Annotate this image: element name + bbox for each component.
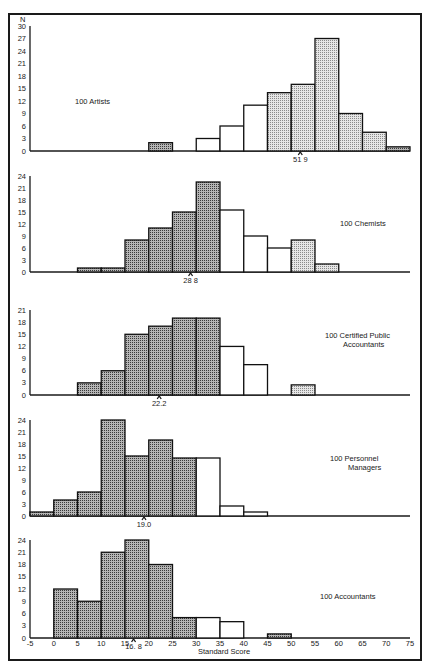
histogram-bar: [315, 264, 339, 272]
y-tick-label: 21: [18, 548, 26, 557]
histogram-bar: [196, 618, 220, 638]
x-tick-label: -5: [27, 639, 34, 648]
histogram-bar: [78, 492, 102, 516]
histogram-bar: [291, 84, 315, 151]
histogram-bar: [125, 240, 149, 272]
histogram-bar: [54, 589, 78, 638]
y-tick-label: 24: [18, 172, 26, 181]
histogram-bar: [173, 212, 197, 272]
histogram-bar: [30, 512, 54, 516]
x-axis-label: Standard Score: [198, 647, 250, 656]
x-tick-label: 55: [311, 639, 319, 648]
mean-label: 22.2: [152, 399, 167, 408]
x-tick-label: 5: [75, 639, 79, 648]
y-tick-label: 15: [18, 208, 26, 217]
y-tick-label: 18: [18, 440, 26, 449]
x-tick-label: 65: [358, 639, 366, 648]
y-tick-label: 3: [22, 500, 26, 509]
y-tick-label: 15: [18, 84, 26, 93]
histogram-bar: [78, 601, 102, 638]
histogram-bar: [101, 268, 125, 272]
histogram-bar: [268, 93, 292, 151]
panel-title: 100 Chemists: [340, 219, 386, 228]
histogram-bar: [244, 365, 268, 395]
x-tick-label: 50: [287, 639, 295, 648]
histogram-bar: [220, 210, 244, 272]
histogram-panel: 0369121518212416. 8100 Accountants: [18, 536, 410, 652]
panel-title: Accountants: [343, 340, 385, 349]
histogram-bar: [196, 182, 220, 272]
histogram-bar: [125, 456, 149, 516]
histogram-bar: [78, 383, 102, 395]
histogram-panel: 03691215182124273051 9100 Artists: [18, 22, 410, 165]
histogram-bar: [173, 318, 197, 395]
panels: 03691215182124273051 9100 Artists0369121…: [18, 22, 410, 652]
histogram-panel: 0369121518212419.0100 PersonnelManagers: [18, 416, 410, 530]
y-tick-label: 6: [22, 244, 26, 253]
histogram-figure: N 03691215182124273051 9100 Artists03691…: [0, 0, 429, 670]
y-tick-label: 0: [22, 147, 26, 156]
y-tick-label: 15: [18, 330, 26, 339]
y-tick-label: 3: [22, 256, 26, 265]
histogram-bar: [315, 39, 339, 152]
y-tick-label: 21: [18, 428, 26, 437]
y-tick-label: 9: [22, 232, 26, 241]
histogram-bar: [173, 618, 197, 638]
panel-title: 100 Certified Public: [325, 331, 390, 340]
mean-label: 19.0: [137, 520, 152, 529]
y-tick-label: 30: [18, 22, 26, 31]
histogram-bar: [196, 318, 220, 395]
y-tick-label: 18: [18, 196, 26, 205]
histogram-bar: [363, 132, 387, 151]
y-tick-label: 12: [18, 97, 26, 106]
y-tick-label: 24: [18, 536, 26, 545]
histogram-bar: [196, 139, 220, 152]
y-tick-label: 15: [18, 572, 26, 581]
histogram-bar: [220, 346, 244, 395]
histogram-bar: [291, 385, 315, 395]
y-tick-label: 9: [22, 109, 26, 118]
y-tick-label: 21: [18, 59, 26, 68]
histogram-bar: [149, 565, 173, 639]
histogram-panel: 03691215182122.2100 Certified PublicAcco…: [18, 306, 410, 409]
histogram-bar: [268, 634, 292, 638]
y-tick-label: 15: [18, 452, 26, 461]
x-tick-label: 10: [97, 639, 105, 648]
y-tick-label: 21: [18, 184, 26, 193]
y-tick-label: 18: [18, 72, 26, 81]
histogram-bar: [54, 500, 78, 516]
histogram-bar: [244, 512, 268, 516]
y-tick-label: 0: [22, 512, 26, 521]
histogram-bar: [220, 622, 244, 638]
histogram-bar: [220, 126, 244, 151]
histogram-panel: 0369121518212428 8100 Chemists: [18, 172, 410, 286]
histogram-bar: [149, 228, 173, 272]
x-tick-label: 75: [406, 639, 414, 648]
y-tick-label: 27: [18, 34, 26, 43]
y-tick-label: 3: [22, 621, 26, 630]
x-tick-label: 45: [263, 639, 271, 648]
panel-title: 100 Personnel: [330, 454, 379, 463]
histogram-bar: [101, 371, 125, 395]
y-tick-label: 12: [18, 464, 26, 473]
histogram-bar: [244, 105, 268, 151]
x-tick-label: 15: [121, 639, 129, 648]
panel-title: 100 Accountants: [320, 592, 376, 601]
y-tick-label: 6: [22, 366, 26, 375]
panel-title: Managers: [348, 463, 382, 472]
y-tick-label: 18: [18, 318, 26, 327]
histogram-bar: [125, 334, 149, 395]
histogram-bar: [244, 236, 268, 272]
x-tick-label: 60: [335, 639, 343, 648]
histogram-bar: [101, 552, 125, 638]
x-tick-label: 25: [168, 639, 176, 648]
y-tick-label: 6: [22, 122, 26, 131]
y-tick-label: 0: [22, 268, 26, 277]
histogram-bar: [149, 440, 173, 516]
x-tick-label: 70: [382, 639, 390, 648]
y-tick-label: 9: [22, 354, 26, 363]
y-tick-label: 3: [22, 134, 26, 143]
histogram-bar: [386, 147, 410, 151]
y-tick-label: 12: [18, 585, 26, 594]
y-tick-label: 24: [18, 416, 26, 425]
